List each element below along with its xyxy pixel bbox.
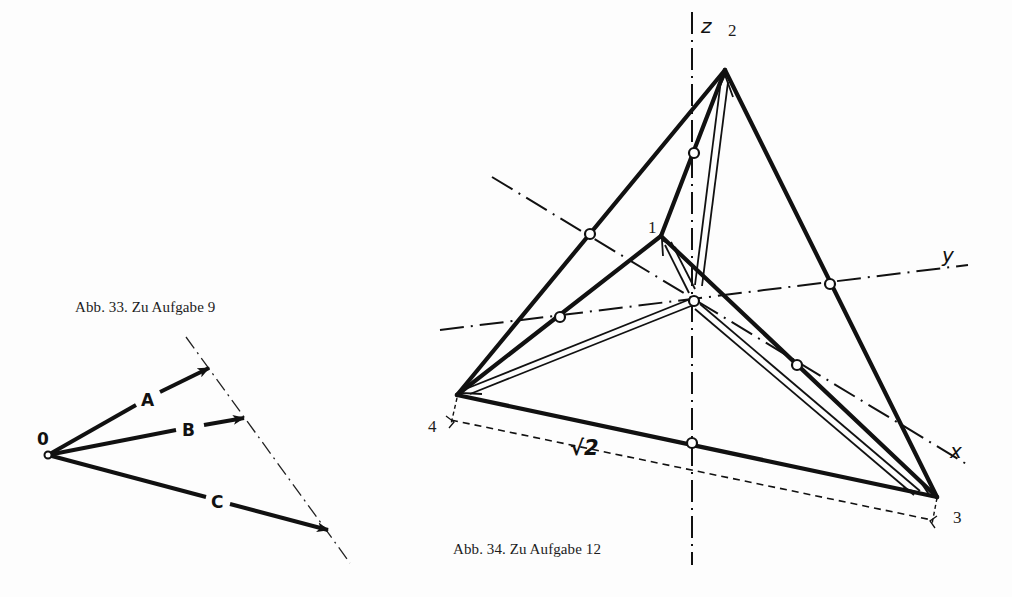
vertex-2-label: 2 — [728, 21, 737, 40]
vertex-4-label: 4 — [428, 417, 437, 436]
figure-34-caption: Abb. 34. Zu Aufgabe 12 — [453, 541, 601, 558]
vertex-1-label: 1 — [648, 218, 657, 237]
origin-label: 0 — [37, 429, 49, 449]
figure-34-tetrahedron: z y x 1 2 3 4 √2 — [428, 12, 968, 565]
vector-c-label: C — [211, 492, 223, 512]
intersection-points — [555, 148, 835, 448]
vector-a — [48, 368, 209, 455]
tetrahedron-edges — [457, 70, 937, 497]
vector-c — [48, 455, 328, 530]
vector-a-label: A — [141, 390, 155, 410]
origin-point — [45, 452, 52, 459]
figure-33-vector-diagram: 0 A B C — [37, 337, 350, 563]
vertex-3-label: 3 — [953, 508, 962, 527]
double-line-arrows — [461, 75, 930, 496]
x-axis-label: x — [949, 439, 962, 463]
y-axis-label: y — [941, 243, 955, 267]
vector-b-label: B — [182, 420, 195, 440]
scanned-textbook-page: 0 A B C — [0, 0, 1012, 597]
z-axis-label: z — [700, 14, 712, 38]
figure-33-caption: Abb. 33. Zu Aufgabe 9 — [75, 299, 215, 316]
edge-length-label: √2 — [570, 436, 599, 460]
